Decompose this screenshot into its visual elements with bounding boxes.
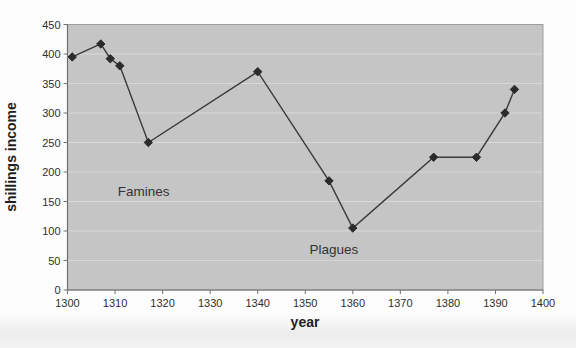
annotation-plagues: Plagues xyxy=(309,242,358,257)
x-tick-label: 1400 xyxy=(531,297,555,309)
y-tick-label: 300 xyxy=(42,107,60,119)
annotation-famines: Famines xyxy=(118,184,170,199)
x-tick-label: 1320 xyxy=(150,297,174,309)
x-tick-label: 1330 xyxy=(198,297,222,309)
y-tick-label: 400 xyxy=(42,48,60,60)
plot-layer: 0501001502002503003504004501300131013201… xyxy=(42,19,555,310)
x-tick-label: 1380 xyxy=(436,297,460,309)
x-tick-label: 1370 xyxy=(388,297,412,309)
x-tick-label: 1360 xyxy=(341,297,365,309)
y-tick-label: 0 xyxy=(54,284,60,296)
chart-canvas: 0501001502002503003504004501300131013201… xyxy=(0,0,576,348)
y-tick-label: 250 xyxy=(42,137,60,149)
y-tick-label: 150 xyxy=(42,196,60,208)
y-tick-label: 450 xyxy=(42,19,60,31)
x-tick-label: 1340 xyxy=(245,297,269,309)
y-axis-title: shillings income xyxy=(3,102,19,212)
x-tick-label: 1310 xyxy=(103,297,127,309)
x-tick-label: 1350 xyxy=(293,297,317,309)
y-tick-label: 100 xyxy=(42,225,60,237)
x-tick-label: 1300 xyxy=(55,297,79,309)
y-tick-label: 50 xyxy=(48,255,60,267)
y-tick-label: 350 xyxy=(42,78,60,90)
y-tick-label: 200 xyxy=(42,166,60,178)
x-axis-title: year xyxy=(291,314,320,330)
x-tick-label: 1390 xyxy=(483,297,507,309)
line-chart: 0501001502002503003504004501300131013201… xyxy=(0,0,576,348)
